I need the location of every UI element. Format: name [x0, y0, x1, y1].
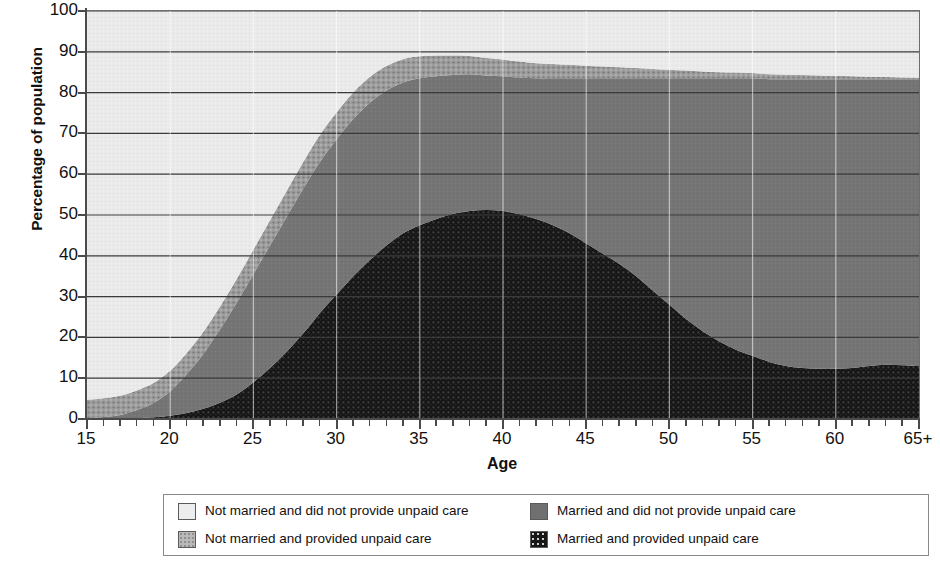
x-tick-mark-minor	[652, 420, 654, 426]
x-tick-label: 35	[409, 429, 428, 449]
x-tick-label: 45	[576, 429, 595, 449]
chart-legend: Not married and did not provide unpaid c…	[163, 494, 929, 556]
x-tick-mark-minor	[485, 420, 487, 426]
x-tick-mark-major	[585, 420, 587, 429]
x-tick-mark-minor	[452, 420, 454, 426]
y-tick-label: 60	[22, 163, 78, 183]
x-tick-mark-minor	[818, 420, 820, 426]
x-tick-mark-minor	[435, 420, 437, 426]
y-axis-tick-labels: 0102030405060708090100	[22, 0, 78, 430]
legend-label: Not married and did not provide unpaid c…	[205, 504, 468, 518]
y-tick-mark	[78, 418, 86, 420]
x-tick-mark-minor	[635, 420, 637, 426]
y-tick-mark	[78, 296, 86, 298]
y-tick-mark	[78, 214, 86, 216]
x-tick-mark-minor	[402, 420, 404, 426]
x-tick-mark-minor	[119, 420, 121, 426]
y-tick-label: 20	[22, 326, 78, 346]
x-tick-mark-minor	[785, 420, 787, 426]
x-tick-mark-minor	[186, 420, 188, 426]
y-tick-mark	[78, 92, 86, 94]
x-tick-mark-minor	[153, 420, 155, 426]
x-tick-mark-minor	[768, 420, 770, 426]
y-tick-mark	[78, 10, 86, 12]
x-tick-mark-minor	[868, 420, 870, 426]
x-tick-mark-minor	[851, 420, 853, 426]
legend-swatch-icon	[178, 531, 196, 548]
x-tick-mark-minor	[885, 420, 887, 426]
x-tick-mark-minor	[802, 420, 804, 426]
x-tick-mark-minor	[469, 420, 471, 426]
x-tick-mark-major	[169, 420, 171, 429]
legend-swatch-icon	[530, 531, 548, 548]
y-tick-mark	[78, 51, 86, 53]
y-tick-label: 10	[22, 367, 78, 387]
x-tick-mark-minor	[519, 420, 521, 426]
y-tick-label: 0	[22, 408, 78, 428]
x-tick-mark-minor	[219, 420, 221, 426]
plot-area	[86, 10, 920, 420]
x-tick-mark-major	[86, 420, 88, 429]
x-tick-label: 30	[326, 429, 345, 449]
legend-item-married-no-care[interactable]: Married and did not provide unpaid care	[530, 503, 928, 520]
y-tick-label: 30	[22, 286, 78, 306]
x-tick-mark-minor	[702, 420, 704, 426]
y-tick-mark	[78, 173, 86, 175]
x-tick-mark-minor	[535, 420, 537, 426]
x-tick-label: 65+	[904, 429, 933, 449]
x-tick-label: 60	[825, 429, 844, 449]
x-tick-mark-minor	[901, 420, 903, 426]
stacked-area-chart: Percentage of population 010203040506070…	[0, 0, 940, 561]
legend-swatch-icon	[178, 503, 196, 520]
legend-label: Married and did not provide unpaid care	[557, 504, 796, 518]
x-tick-mark-major	[419, 420, 421, 429]
x-tick-label: 55	[742, 429, 761, 449]
x-tick-mark-minor	[103, 420, 105, 426]
x-tick-mark-minor	[685, 420, 687, 426]
x-tick-mark-minor	[236, 420, 238, 426]
y-tick-label: 70	[22, 122, 78, 142]
x-tick-mark-major	[336, 420, 338, 429]
x-tick-mark-minor	[718, 420, 720, 426]
x-tick-label: 40	[493, 429, 512, 449]
y-tick-mark	[78, 132, 86, 134]
y-tick-label: 80	[22, 82, 78, 102]
legend-swatch-icon	[530, 503, 548, 520]
x-tick-mark-minor	[569, 420, 571, 426]
x-tick-label: 15	[77, 429, 96, 449]
x-tick-mark-major	[918, 420, 920, 429]
y-tick-label: 90	[22, 41, 78, 61]
y-tick-label: 50	[22, 204, 78, 224]
x-tick-mark-major	[502, 420, 504, 429]
x-tick-mark-minor	[369, 420, 371, 426]
x-tick-mark-minor	[352, 420, 354, 426]
x-tick-mark-minor	[136, 420, 138, 426]
x-tick-mark-minor	[302, 420, 304, 426]
legend-item-not-married-no-care[interactable]: Not married and did not provide unpaid c…	[178, 503, 530, 520]
x-tick-mark-major	[835, 420, 837, 429]
x-tick-mark-major	[668, 420, 670, 429]
legend-label: Not married and provided unpaid care	[205, 532, 432, 546]
x-tick-label: 20	[160, 429, 179, 449]
x-tick-mark-minor	[618, 420, 620, 426]
x-tick-mark-minor	[269, 420, 271, 426]
x-tick-mark-minor	[552, 420, 554, 426]
legend-item-married-care[interactable]: Married and provided unpaid care	[530, 531, 928, 548]
x-tick-mark-minor	[602, 420, 604, 426]
plot-svg	[87, 11, 919, 419]
y-tick-mark	[78, 377, 86, 379]
x-tick-mark-minor	[386, 420, 388, 426]
legend-label: Married and provided unpaid care	[557, 532, 759, 546]
legend-item-not-married-care[interactable]: Not married and provided unpaid care	[178, 531, 530, 548]
y-tick-mark	[78, 255, 86, 257]
x-axis-title: Age	[86, 455, 918, 473]
x-tick-mark-minor	[202, 420, 204, 426]
y-tick-label: 40	[22, 245, 78, 265]
x-tick-mark-minor	[286, 420, 288, 426]
x-tick-label: 50	[659, 429, 678, 449]
x-tick-mark-major	[752, 420, 754, 429]
x-tick-mark-minor	[735, 420, 737, 426]
y-tick-mark	[78, 336, 86, 338]
y-tick-label: 100	[22, 0, 78, 20]
x-tick-mark-major	[252, 420, 254, 429]
